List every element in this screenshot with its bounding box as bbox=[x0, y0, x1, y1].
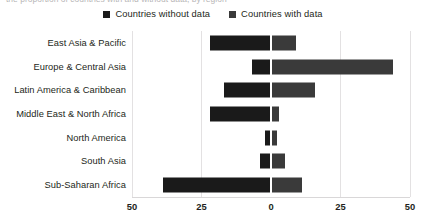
category-label: Europe & Central Asia bbox=[0, 62, 126, 72]
x-axis: 502502550 bbox=[0, 197, 426, 223]
clipped-caption: the proportion of countries with and wit… bbox=[0, 0, 426, 7]
bar-row: Sub-Saharan Africa bbox=[0, 173, 426, 197]
bar-segment-with-data[interactable] bbox=[271, 154, 285, 169]
bar-row: South Asia bbox=[0, 150, 426, 174]
bar-segment-with-data[interactable] bbox=[271, 178, 302, 193]
x-axis-tick-label: 25 bbox=[335, 201, 345, 212]
category-label: South Asia bbox=[0, 156, 126, 166]
legend-item-countries-with-data[interactable]: Countries with data bbox=[229, 9, 322, 19]
bar-row: East Asia & Pacific bbox=[0, 31, 426, 55]
bar-row: Europe & Central Asia bbox=[0, 55, 426, 79]
bar-segment-without-data[interactable] bbox=[252, 59, 271, 74]
bar-row: Middle East & North Africa bbox=[0, 102, 426, 126]
bar-segment-with-data[interactable] bbox=[271, 106, 279, 121]
category-label: Middle East & North Africa bbox=[0, 109, 126, 119]
x-axis-tick-label: 0 bbox=[268, 201, 273, 212]
bar-segment-without-data[interactable] bbox=[224, 83, 271, 98]
bar-segment-with-data[interactable] bbox=[271, 35, 296, 50]
category-label: East Asia & Pacific bbox=[0, 38, 126, 48]
category-label: Sub-Saharan Africa bbox=[0, 180, 126, 190]
bar-segment-with-data[interactable] bbox=[271, 59, 393, 74]
bar-row: Latin America & Caribbean bbox=[0, 78, 426, 102]
bar-segment-without-data[interactable] bbox=[210, 35, 271, 50]
legend-item-countries-without-data[interactable]: Countries without data bbox=[103, 9, 210, 19]
bar-segment-with-data[interactable] bbox=[271, 83, 315, 98]
bar-segment-without-data[interactable] bbox=[163, 178, 271, 193]
x-axis-tick-label: 25 bbox=[196, 201, 206, 212]
zero-line bbox=[270, 31, 272, 197]
legend-label: Countries without data bbox=[115, 9, 210, 19]
bar-segment-with-data[interactable] bbox=[271, 130, 277, 145]
square-swatch-icon bbox=[103, 11, 110, 18]
category-label: Latin America & Caribbean bbox=[0, 85, 126, 95]
square-swatch-icon bbox=[229, 11, 236, 18]
plot-area: East Asia & PacificEurope & Central Asia… bbox=[0, 31, 426, 197]
bar-segment-without-data[interactable] bbox=[210, 106, 271, 121]
x-axis-tick-label: 50 bbox=[405, 201, 415, 212]
bar-rows: East Asia & PacificEurope & Central Asia… bbox=[0, 31, 426, 197]
diverging-bar-chart: the proportion of countries with and wit… bbox=[0, 0, 426, 223]
x-axis-tick-label: 50 bbox=[127, 201, 137, 212]
clipped-caption-text: the proportion of countries with and wit… bbox=[6, 0, 227, 4]
chart-legend: Countries without data Countries with da… bbox=[0, 9, 426, 19]
legend-label: Countries with data bbox=[241, 9, 322, 19]
axis-line bbox=[132, 197, 410, 198]
bar-row: North America bbox=[0, 126, 426, 150]
category-label: North America bbox=[0, 133, 126, 143]
